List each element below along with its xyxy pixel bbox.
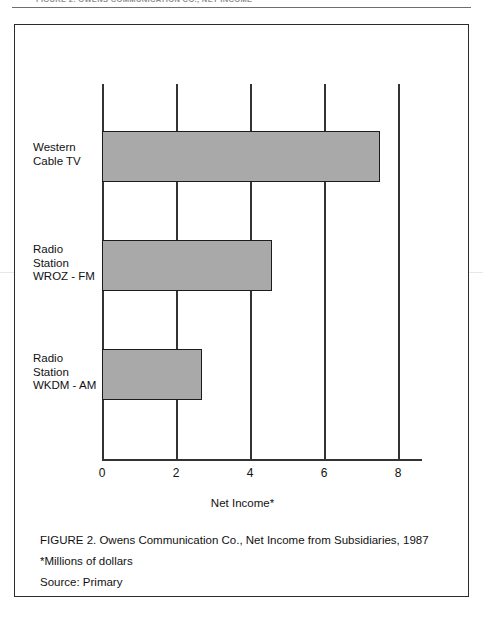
category-label-western-cable-tv: Western Cable TV — [33, 141, 105, 168]
category-label-line: Station — [33, 257, 105, 271]
xtick-label-2: 2 — [164, 466, 188, 480]
xtick-label-6: 6 — [312, 466, 336, 480]
xtick-label-0: 0 — [90, 466, 114, 480]
category-label-radio-station-wkdm-am: Radio Station WKDM - AM — [33, 352, 105, 393]
category-label-line: WROZ - FM — [33, 270, 105, 284]
category-label-line: Radio — [33, 243, 105, 257]
bar-radio-station-wroz-fm — [102, 240, 272, 291]
figure-caption-source: Source: Primary — [40, 572, 450, 593]
page-running-header: FIGURE 2. OWENS COMMUNICATION CO., NET I… — [0, 0, 483, 10]
x-axis-title: Net Income* — [15, 497, 470, 509]
page-header-text: FIGURE 2. OWENS COMMUNICATION CO., NET I… — [36, 0, 252, 4]
x-axis-line — [102, 459, 422, 461]
category-label-radio-station-wroz-fm: Radio Station WROZ - FM — [33, 243, 105, 284]
gridline-8 — [398, 84, 400, 459]
xtick-label-8: 8 — [386, 466, 410, 480]
category-label-line: WKDM - AM — [33, 379, 105, 393]
bar-chart-plot-area: Western Cable TV Radio Station WROZ - FM… — [15, 25, 470, 480]
bar-radio-station-wkdm-am — [102, 349, 202, 400]
figure-caption-block: FIGURE 2. Owens Communication Co., Net I… — [40, 530, 450, 593]
figure-frame: Western Cable TV Radio Station WROZ - FM… — [14, 24, 469, 597]
header-divider-rule — [12, 7, 471, 8]
figure-caption-footnote: *Millions of dollars — [40, 551, 450, 572]
bar-western-cable-tv — [102, 131, 380, 182]
category-label-line: Cable TV — [33, 155, 105, 169]
category-label-line: Station — [33, 366, 105, 380]
category-label-line: Western — [33, 141, 105, 155]
xtick-label-4: 4 — [238, 466, 262, 480]
figure-caption-title: FIGURE 2. Owens Communication Co., Net I… — [40, 530, 450, 551]
category-label-line: Radio — [33, 352, 105, 366]
